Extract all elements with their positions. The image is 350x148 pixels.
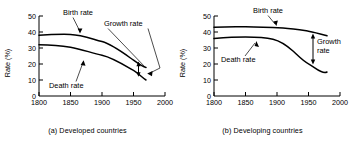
annotation-birth-rate-b: Birth rate (253, 6, 283, 15)
curve-death-rate-a (39, 45, 146, 80)
demographic-transition-figure: Rate (%) 50 40 30 20 10 0 1800 (0, 0, 350, 148)
curve-birth-rate-b (214, 27, 327, 36)
arrowhead-birth-rate-a (78, 29, 83, 34)
arrowhead-death-rate-a (81, 60, 86, 66)
arrowhead-death-rate-b (255, 41, 259, 47)
chart-b-svg: Rate (%) 50 40 30 20 10 0 1800 (175, 0, 350, 128)
y-tick-label-30-b: 30 (203, 44, 211, 53)
leader-death-rate-a (76, 63, 83, 82)
panel-developed-countries: Rate (%) 50 40 30 20 10 0 1800 (0, 0, 175, 148)
y-tick-label-50-b: 50 (203, 12, 211, 21)
annotation-growth-rate-b-line2: rate (317, 46, 330, 55)
x-tick-label-2000: 2000 (157, 98, 173, 107)
x-tick-label-2000-b: 2000 (332, 98, 348, 107)
annotation-birth-rate-a: Birth rate (63, 8, 93, 17)
arrowhead-growth-rate-a (147, 71, 152, 76)
y-axis-title-b: Rate (%) (178, 49, 187, 77)
y-tick-label-40: 40 (28, 28, 36, 37)
caption-panel-a: (a) Developed countries (0, 126, 175, 135)
x-tick-label-1850-b: 1850 (238, 98, 254, 107)
annotation-death-rate-a: Death rate (49, 81, 84, 90)
x-tick-label-1900-b: 1900 (269, 98, 285, 107)
leader-growth-rate-a-lower (148, 29, 160, 74)
leader-growth-rate-a-upper (108, 29, 146, 69)
x-tick-label-1800-b: 1800 (206, 98, 222, 107)
arrowhead-birth-rate-b (273, 21, 278, 26)
x-tick-label-1850: 1850 (63, 98, 79, 107)
y-axis-title-a: Rate (%) (3, 49, 12, 77)
annotation-growth-rate-a: Growth rate (104, 19, 143, 28)
growth-gap-arrowhead-top-b (311, 34, 315, 39)
y-tick-label-50: 50 (28, 12, 36, 21)
panel-developing-countries: Rate (%) 50 40 30 20 10 0 1800 (175, 0, 350, 148)
y-tick-label-20-b: 20 (203, 60, 211, 69)
y-tick-label-10: 10 (28, 76, 36, 85)
growth-gap-arrowhead-bottom-b (311, 60, 315, 65)
x-tick-label-1950-b: 1950 (301, 98, 317, 107)
x-tick-label-1800: 1800 (31, 98, 47, 107)
x-tick-label-1900: 1900 (94, 98, 110, 107)
y-tick-label-10-b: 10 (203, 76, 211, 85)
annotation-death-rate-b: Death rate (221, 55, 256, 64)
y-tick-label-30: 30 (28, 44, 36, 53)
y-tick-label-20: 20 (28, 60, 36, 69)
x-tick-label-1950: 1950 (126, 98, 142, 107)
leader-birth-rate-b (268, 16, 275, 25)
annotation-growth-rate-b-line1: Growth (317, 37, 341, 46)
caption-panel-b: (b) Developing countries (175, 126, 350, 135)
y-tick-label-40-b: 40 (203, 28, 211, 37)
chart-a-svg: Rate (%) 50 40 30 20 10 0 1800 (0, 0, 175, 128)
